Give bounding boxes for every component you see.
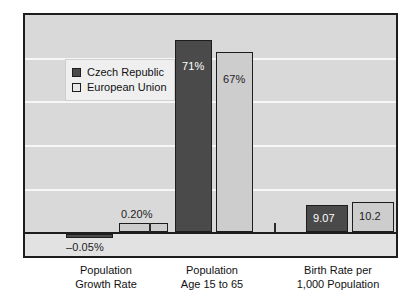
category-label-line-1: Population [46,263,166,277]
legend-swatch-icon-czech-republic [72,68,81,77]
legend-label-european-union: European Union [87,82,167,93]
category-axis-labels: Population Growth Rate Population Age 15… [23,263,398,301]
plot-frame: –0.05% 0.20% 71% 67% 9.07 10.2 Czech Rep… [23,13,398,258]
bar-label-eu-population-growth-rate: 0.20% [121,208,153,220]
category-label-line-2: Age 15 to 65 [152,277,272,291]
category-label-line-1: Birth Rate per [278,263,398,277]
legend-item-european-union[interactable]: European Union [72,80,167,94]
bar-chart: –0.05% 0.20% 71% 67% 9.07 10.2 Czech Rep… [0,0,419,304]
legend-label-czech-republic: Czech Republic [87,67,164,78]
legend-item-czech-republic[interactable]: Czech Republic [72,65,167,79]
category-label-population-growth-rate: Population Growth Rate [46,263,166,291]
category-label-line-1: Population [152,263,272,277]
chart-legend: Czech Republic European Union [65,59,175,101]
bar-eu-population-growth-rate[interactable] [119,223,168,232]
bar-label-czech-birth-rate: 9.07 [313,212,335,224]
category-separator-tick-2 [274,223,276,232]
bar-czech-population-growth-rate[interactable] [66,234,113,238]
legend-swatch-icon-european-union [72,83,81,92]
category-label-population-age-15-to-65: Population Age 15 to 65 [152,263,272,291]
bar-label-eu-population-age-15-to-65: 67% [223,73,245,85]
bar-label-czech-population-age-15-to-65: 71% [182,60,204,72]
bar-label-czech-population-growth-rate: –0.05% [66,241,104,253]
category-label-line-2: 1,000 Population [278,277,398,291]
category-separator-tick-1 [149,223,151,232]
bar-label-eu-birth-rate: 10.2 [359,210,381,222]
zero-baseline-axis [25,232,396,234]
category-label-line-2: Growth Rate [46,277,166,291]
category-label-birth-rate: Birth Rate per 1,000 Population [278,263,398,291]
